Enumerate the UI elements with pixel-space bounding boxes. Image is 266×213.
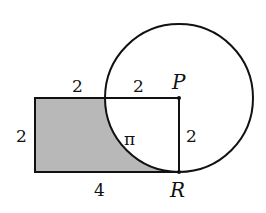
label-right-2: 2 xyxy=(186,126,197,146)
label-bottom-4: 4 xyxy=(94,180,105,200)
label-top-right-2: 2 xyxy=(133,76,144,96)
label-arc-pi: π xyxy=(124,129,135,149)
point-p-dot xyxy=(177,96,181,100)
point-r-dot xyxy=(177,170,181,174)
label-top-left-2: 2 xyxy=(72,76,83,96)
geometry-diagram: 2 2 2 4 2 π P R xyxy=(0,0,266,213)
label-left-2: 2 xyxy=(16,126,27,146)
label-point-p: P xyxy=(171,70,186,94)
label-point-r: R xyxy=(169,178,185,202)
shaded-region xyxy=(35,98,179,172)
